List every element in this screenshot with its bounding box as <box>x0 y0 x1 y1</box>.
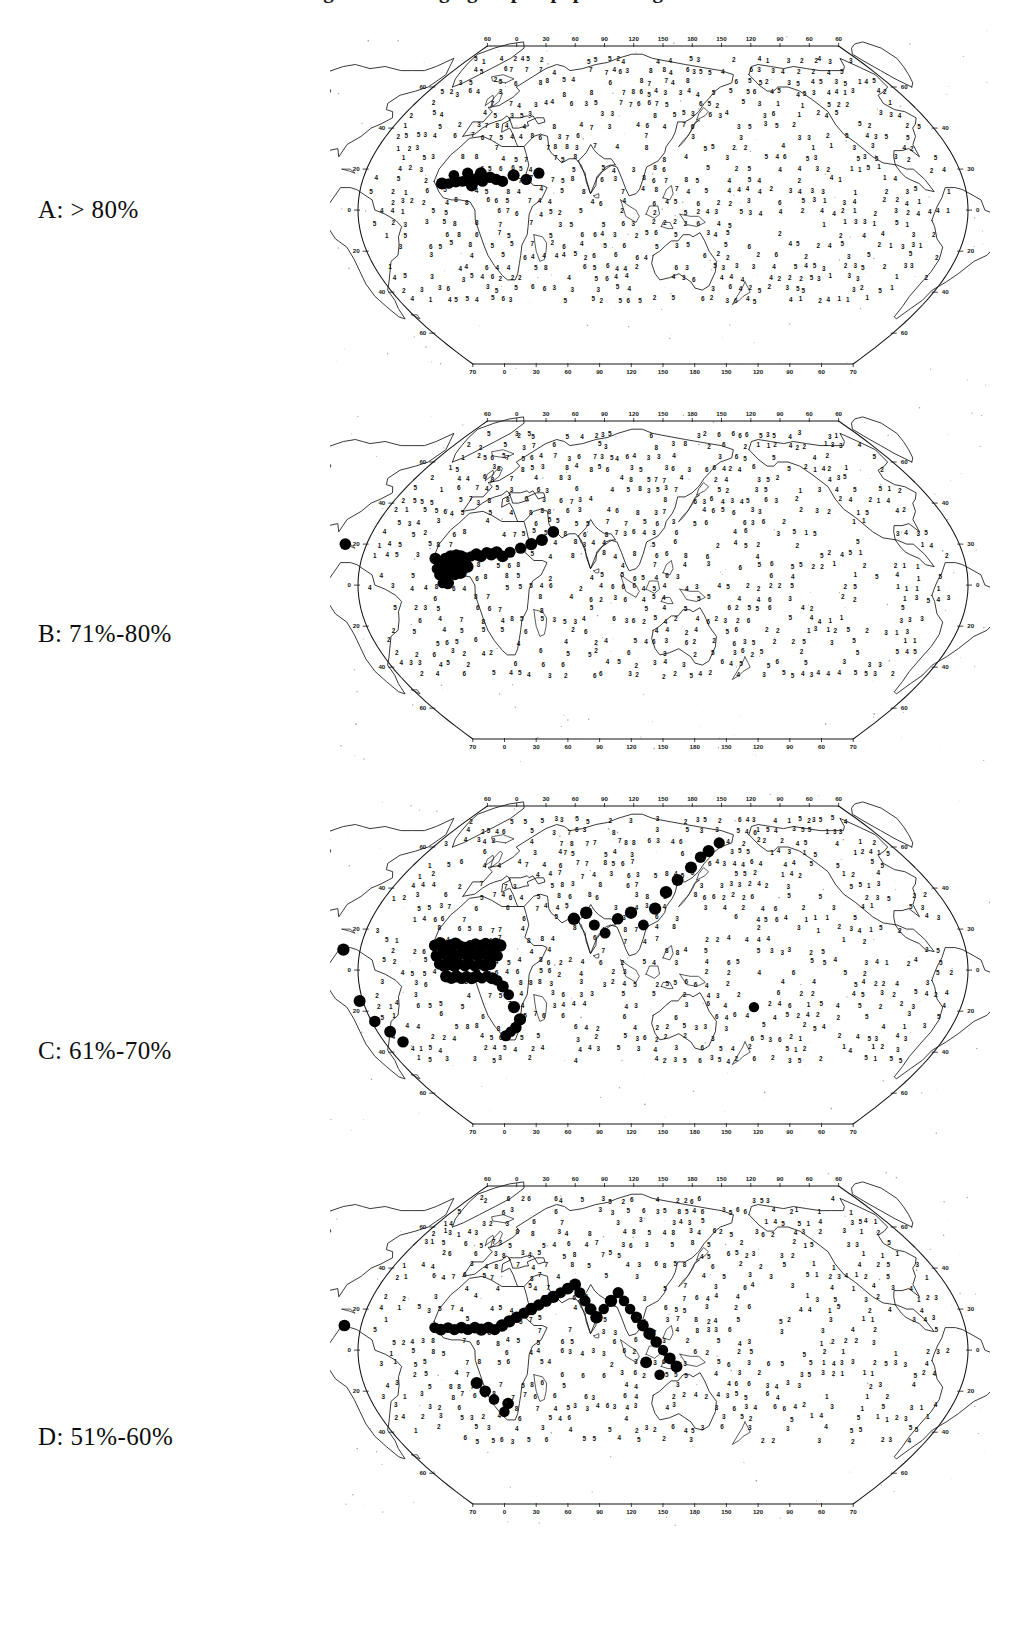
svg-text:2: 2 <box>880 466 884 473</box>
svg-text:2: 2 <box>707 443 711 450</box>
svg-text:6: 6 <box>499 165 503 172</box>
svg-text:1: 1 <box>877 497 881 504</box>
svg-text:4: 4 <box>551 935 555 942</box>
map-marker <box>625 907 637 919</box>
svg-text:3: 3 <box>842 1227 846 1234</box>
svg-text:6: 6 <box>474 636 478 643</box>
svg-text:3: 3 <box>786 1379 790 1386</box>
svg-text:7: 7 <box>460 616 464 623</box>
lon-tick-label-bottom: 0 <box>503 743 507 750</box>
svg-text:4: 4 <box>398 165 402 172</box>
svg-text:4: 4 <box>759 860 763 867</box>
map-marker <box>454 567 466 579</box>
svg-text:6: 6 <box>561 661 565 668</box>
svg-text:6: 6 <box>561 1338 565 1345</box>
svg-text:2: 2 <box>662 1435 666 1442</box>
svg-text:4: 4 <box>796 840 800 847</box>
svg-text:8: 8 <box>663 1262 667 1269</box>
svg-text:5: 5 <box>527 1436 531 1443</box>
svg-text:4: 4 <box>517 640 521 647</box>
svg-text:5: 5 <box>413 497 417 504</box>
svg-text:5: 5 <box>813 1025 817 1032</box>
map-marker <box>547 526 559 538</box>
svg-text:4: 4 <box>501 617 505 624</box>
svg-text:2: 2 <box>424 529 428 536</box>
svg-text:4: 4 <box>827 89 831 96</box>
svg-text:5: 5 <box>565 433 569 440</box>
svg-text:3: 3 <box>591 1347 595 1354</box>
svg-text:5: 5 <box>713 262 717 269</box>
svg-text:4: 4 <box>385 551 389 558</box>
svg-text:3: 3 <box>552 284 556 291</box>
svg-text:3: 3 <box>711 1035 715 1042</box>
svg-text:6: 6 <box>457 484 461 491</box>
svg-text:4: 4 <box>548 1358 552 1365</box>
svg-text:3: 3 <box>830 639 834 646</box>
svg-text:4: 4 <box>716 1391 720 1398</box>
svg-text:2: 2 <box>558 971 562 978</box>
svg-text:5: 5 <box>480 894 484 901</box>
svg-text:5: 5 <box>782 669 786 676</box>
svg-text:5: 5 <box>488 165 492 172</box>
svg-text:8: 8 <box>638 485 642 492</box>
svg-text:5: 5 <box>686 241 690 248</box>
svg-text:3: 3 <box>801 1228 805 1235</box>
svg-text:4: 4 <box>507 264 511 271</box>
svg-text:5: 5 <box>699 68 703 75</box>
svg-text:5: 5 <box>711 649 715 656</box>
svg-text:2: 2 <box>883 263 887 270</box>
svg-text:4: 4 <box>707 992 711 999</box>
svg-text:8: 8 <box>506 188 510 195</box>
svg-text:4: 4 <box>725 109 729 116</box>
svg-text:4: 4 <box>643 529 647 536</box>
svg-text:2: 2 <box>788 274 792 281</box>
svg-text:6: 6 <box>671 465 675 472</box>
svg-text:5: 5 <box>721 506 725 513</box>
svg-text:6: 6 <box>502 828 506 835</box>
svg-text:5: 5 <box>634 637 638 644</box>
svg-text:7: 7 <box>463 1337 467 1344</box>
svg-text:3: 3 <box>434 1293 438 1300</box>
svg-text:2: 2 <box>894 562 898 569</box>
svg-text:3: 3 <box>874 1035 878 1042</box>
svg-text:7: 7 <box>653 561 657 568</box>
svg-text:6: 6 <box>463 670 467 677</box>
svg-text:5: 5 <box>879 924 883 931</box>
svg-text:5: 5 <box>418 1303 422 1310</box>
svg-text:4: 4 <box>556 904 560 911</box>
svg-text:6: 6 <box>775 916 779 923</box>
svg-text:3: 3 <box>715 826 719 833</box>
svg-text:5: 5 <box>697 595 701 602</box>
svg-text:5: 5 <box>431 207 435 214</box>
svg-text:3: 3 <box>752 816 756 823</box>
svg-text:4: 4 <box>756 916 760 923</box>
svg-text:4: 4 <box>486 517 490 524</box>
svg-text:3: 3 <box>828 433 832 440</box>
svg-text:2: 2 <box>736 617 740 624</box>
svg-text:5: 5 <box>529 582 533 589</box>
svg-text:6: 6 <box>732 640 736 647</box>
svg-text:4: 4 <box>679 1218 683 1225</box>
svg-text:7: 7 <box>510 66 514 73</box>
svg-text:5: 5 <box>867 251 871 258</box>
svg-text:3: 3 <box>665 637 669 644</box>
svg-text:2: 2 <box>799 506 803 513</box>
svg-text:6: 6 <box>463 1434 467 1441</box>
svg-text:2: 2 <box>653 1426 657 1433</box>
svg-text:5: 5 <box>617 1252 621 1259</box>
svg-text:5: 5 <box>861 264 865 271</box>
svg-text:6: 6 <box>481 134 485 141</box>
svg-text:5: 5 <box>835 109 839 116</box>
svg-text:2: 2 <box>705 936 709 943</box>
svg-text:8: 8 <box>664 496 668 503</box>
svg-text:7: 7 <box>546 144 550 151</box>
svg-text:2: 2 <box>864 1273 868 1280</box>
svg-text:5: 5 <box>766 476 770 483</box>
svg-text:4: 4 <box>840 551 844 558</box>
svg-text:6: 6 <box>747 1303 751 1310</box>
svg-text:3: 3 <box>598 1206 602 1213</box>
lat-tick-label-left: 20 <box>353 540 360 547</box>
svg-text:3: 3 <box>578 496 582 503</box>
svg-text:5: 5 <box>879 485 883 492</box>
svg-text:4: 4 <box>912 1381 916 1388</box>
